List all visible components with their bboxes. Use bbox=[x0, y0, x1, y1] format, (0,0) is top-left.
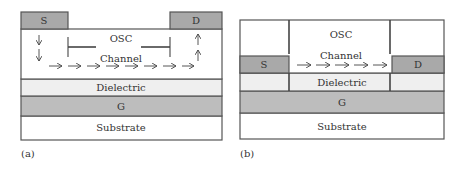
panel-b-osc-label: OSC bbox=[330, 29, 353, 40]
panel-a-channel-label: Channel bbox=[100, 53, 142, 64]
panel-b-dielectric-label: Dielectric bbox=[317, 77, 367, 88]
panel-b-drain-label: D bbox=[414, 59, 422, 70]
figure-canvas: Substrate G Dielectric OSC Channel S D bbox=[0, 0, 462, 169]
panel-b-gate-label: G bbox=[338, 97, 346, 108]
panel-a-source-label: S bbox=[41, 15, 48, 26]
panel-a-drain-label: D bbox=[192, 15, 200, 26]
panel-a-dielectric-label: Dielectric bbox=[96, 82, 146, 93]
panel-a-caption: (a) bbox=[21, 148, 35, 159]
panel-b-top-contact-device: Substrate G Dielectric S D OSC Channel bbox=[240, 20, 444, 159]
panel-b-substrate-label: Substrate bbox=[317, 121, 367, 132]
panel-a-osc-label: OSC bbox=[110, 33, 133, 44]
panel-b-caption: (b) bbox=[240, 148, 254, 159]
panel-a-bottom-contact-device: Substrate G Dielectric OSC Channel S D bbox=[21, 12, 222, 159]
panel-b-channel-label: Channel bbox=[320, 50, 362, 61]
panel-b-source-label: S bbox=[261, 59, 268, 70]
panel-a-gate-label: G bbox=[117, 101, 125, 112]
panel-a-substrate-label: Substrate bbox=[96, 122, 146, 133]
